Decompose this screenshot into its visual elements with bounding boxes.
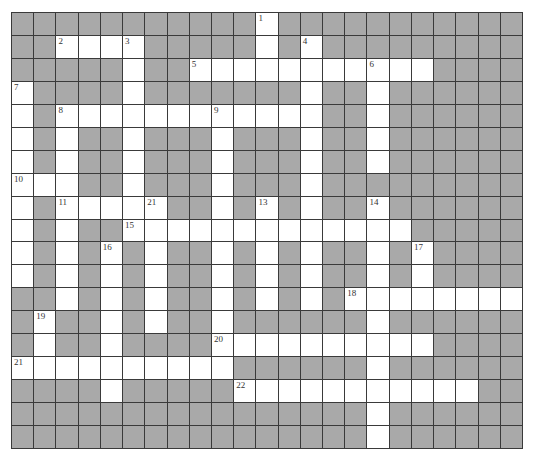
- crossword-cell[interactable]: [212, 128, 233, 150]
- crossword-cell[interactable]: [256, 36, 277, 58]
- crossword-cell[interactable]: [279, 380, 300, 402]
- crossword-cell[interactable]: [301, 380, 322, 402]
- crossword-cell[interactable]: [79, 36, 100, 58]
- crossword-cell[interactable]: [301, 220, 322, 242]
- crossword-cell[interactable]: [101, 311, 122, 333]
- crossword-cell[interactable]: [212, 59, 233, 81]
- crossword-cell[interactable]: [12, 105, 33, 127]
- crossword-cell[interactable]: [123, 59, 144, 81]
- crossword-cell[interactable]: [79, 105, 100, 127]
- crossword-cell[interactable]: [390, 288, 411, 310]
- crossword-cell[interactable]: [301, 265, 322, 287]
- crossword-cell[interactable]: [345, 59, 366, 81]
- crossword-cell[interactable]: [12, 242, 33, 264]
- crossword-cell[interactable]: [234, 220, 255, 242]
- crossword-cell[interactable]: [412, 288, 433, 310]
- crossword-cell[interactable]: [256, 380, 277, 402]
- crossword-cell[interactable]: [301, 174, 322, 196]
- crossword-cell[interactable]: [123, 197, 144, 219]
- crossword-cell[interactable]: [101, 197, 122, 219]
- crossword-cell[interactable]: [367, 265, 388, 287]
- crossword-cell[interactable]: [390, 59, 411, 81]
- crossword-cell[interactable]: [456, 380, 477, 402]
- crossword-cell[interactable]: [123, 151, 144, 173]
- crossword-cell[interactable]: [367, 128, 388, 150]
- crossword-cell[interactable]: 20: [212, 334, 233, 356]
- crossword-cell[interactable]: [12, 128, 33, 150]
- crossword-cell[interactable]: [301, 82, 322, 104]
- crossword-cell[interactable]: 9: [212, 105, 233, 127]
- crossword-cell[interactable]: [123, 82, 144, 104]
- crossword-cell[interactable]: [123, 105, 144, 127]
- crossword-cell[interactable]: [367, 105, 388, 127]
- crossword-cell[interactable]: [301, 151, 322, 173]
- crossword-cell[interactable]: [101, 334, 122, 356]
- crossword-cell[interactable]: [234, 105, 255, 127]
- crossword-cell[interactable]: [123, 128, 144, 150]
- crossword-cell[interactable]: [123, 357, 144, 379]
- crossword-cell[interactable]: 16: [101, 242, 122, 264]
- crossword-cell[interactable]: 17: [412, 242, 433, 264]
- crossword-cell[interactable]: [212, 151, 233, 173]
- crossword-cell[interactable]: 3: [123, 36, 144, 58]
- crossword-cell[interactable]: [367, 357, 388, 379]
- crossword-cell[interactable]: 15: [123, 220, 144, 242]
- crossword-cell[interactable]: [301, 105, 322, 127]
- crossword-cell[interactable]: 1: [256, 13, 277, 35]
- crossword-cell[interactable]: [12, 220, 33, 242]
- crossword-cell[interactable]: [367, 380, 388, 402]
- crossword-cell[interactable]: [301, 128, 322, 150]
- crossword-cell[interactable]: [145, 357, 166, 379]
- crossword-cell[interactable]: [412, 59, 433, 81]
- crossword-cell[interactable]: [212, 311, 233, 333]
- crossword-cell[interactable]: [56, 357, 77, 379]
- crossword-cell[interactable]: [279, 105, 300, 127]
- crossword-cell[interactable]: [101, 357, 122, 379]
- crossword-cell[interactable]: 18: [345, 288, 366, 310]
- crossword-cell[interactable]: [279, 220, 300, 242]
- crossword-cell[interactable]: [34, 357, 55, 379]
- crossword-cell[interactable]: [34, 174, 55, 196]
- crossword-cell[interactable]: [234, 334, 255, 356]
- crossword-cell[interactable]: [56, 242, 77, 264]
- crossword-cell[interactable]: 6: [367, 59, 388, 81]
- crossword-cell[interactable]: [345, 380, 366, 402]
- crossword-cell[interactable]: [390, 334, 411, 356]
- crossword-cell[interactable]: [323, 220, 344, 242]
- crossword-cell[interactable]: [301, 197, 322, 219]
- crossword-cell[interactable]: [256, 288, 277, 310]
- crossword-cell[interactable]: 21: [145, 197, 166, 219]
- crossword-cell[interactable]: [12, 265, 33, 287]
- crossword-cell[interactable]: [56, 174, 77, 196]
- crossword-cell[interactable]: 4: [301, 36, 322, 58]
- crossword-cell[interactable]: [145, 242, 166, 264]
- crossword-cell[interactable]: [456, 288, 477, 310]
- crossword-cell[interactable]: [256, 105, 277, 127]
- crossword-cell[interactable]: [301, 59, 322, 81]
- crossword-cell[interactable]: 21: [12, 357, 33, 379]
- crossword-cell[interactable]: [212, 265, 233, 287]
- crossword-cell[interactable]: [323, 380, 344, 402]
- crossword-cell[interactable]: [56, 265, 77, 287]
- crossword-cell[interactable]: [345, 220, 366, 242]
- crossword-cell[interactable]: [212, 220, 233, 242]
- crossword-cell[interactable]: [190, 357, 211, 379]
- crossword-cell[interactable]: [145, 288, 166, 310]
- crossword-cell[interactable]: [279, 334, 300, 356]
- crossword-cell[interactable]: [212, 357, 233, 379]
- crossword-cell[interactable]: 19: [34, 311, 55, 333]
- crossword-cell[interactable]: [101, 105, 122, 127]
- crossword-cell[interactable]: [56, 151, 77, 173]
- crossword-cell[interactable]: [256, 242, 277, 264]
- crossword-cell[interactable]: [367, 426, 388, 448]
- crossword-cell[interactable]: [145, 311, 166, 333]
- crossword-cell[interactable]: [301, 242, 322, 264]
- crossword-cell[interactable]: [367, 311, 388, 333]
- crossword-cell[interactable]: 22: [234, 380, 255, 402]
- crossword-cell[interactable]: [256, 59, 277, 81]
- crossword-cell[interactable]: [12, 151, 33, 173]
- crossword-cell[interactable]: 2: [56, 36, 77, 58]
- crossword-cell[interactable]: [367, 288, 388, 310]
- crossword-cell[interactable]: [412, 334, 433, 356]
- crossword-cell[interactable]: [367, 242, 388, 264]
